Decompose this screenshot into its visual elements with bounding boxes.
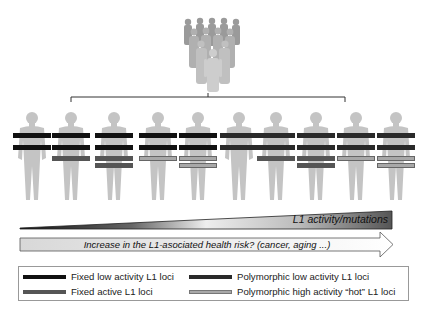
legend-label: Polymorphic high activity “hot” L1 loci [237,286,395,297]
legend-swatch [23,290,66,294]
legend: Fixed low activity L1 loci Fixed active … [18,266,409,301]
legend-label: Fixed active L1 loci [71,286,153,297]
legend-swatch [189,275,232,279]
legend-swatch [23,275,66,279]
legend-swatch [189,290,232,294]
legend-item-fixed-active: Fixed active L1 loci [23,286,153,297]
legend-label: Fixed low activity L1 loci [71,271,174,282]
legend-label: Polymorphic low activity L1 loci [237,271,369,282]
legend-item-poly-high: Polymorphic high activity “hot” L1 loci [189,286,395,297]
wedge-label: L1 activity/mutations [280,213,388,225]
arrow-label: Increase in the L1-asociated health risk… [22,239,392,250]
legend-item-poly-low: Polymorphic low activity L1 loci [189,271,369,282]
legend-item-fixed-low: Fixed low activity L1 loci [23,271,174,282]
